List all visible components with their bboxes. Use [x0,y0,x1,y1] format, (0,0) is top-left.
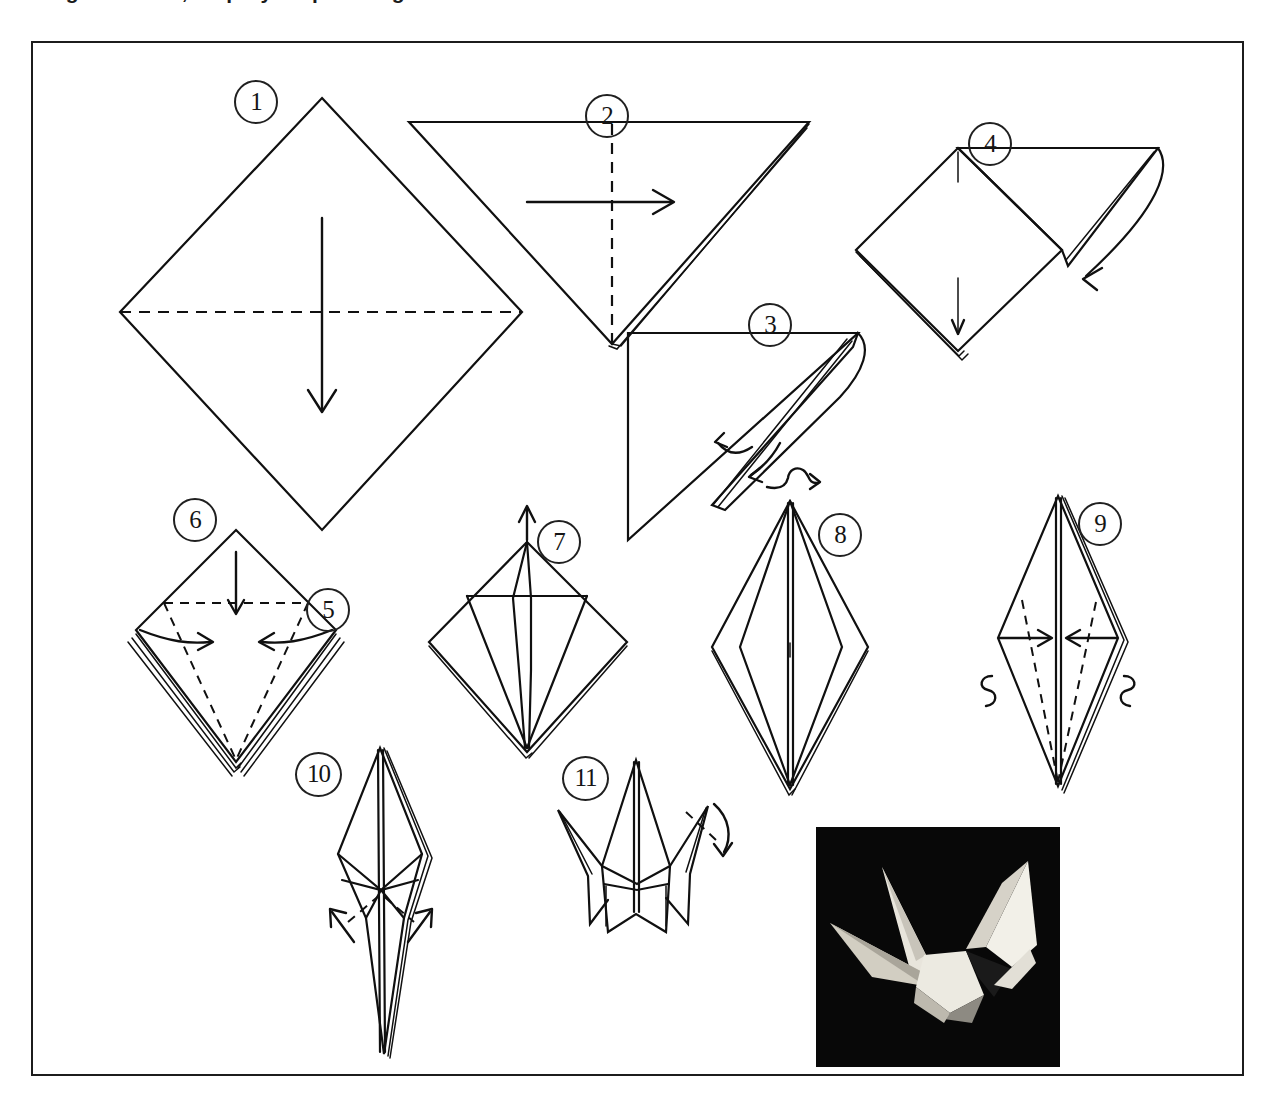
body-crease-upper [602,866,670,884]
left-out-arrow-shaft [332,912,354,942]
inner-right-fold [527,542,531,748]
right-inward-arrow-shaft [262,630,332,643]
flap-edge [1066,152,1154,260]
square-base-outline [856,148,1062,351]
turn-over-loop-path [767,468,818,488]
step-5-6-figure: 6 5 [110,520,370,780]
crane-photo-art [816,827,1060,1067]
step-badge-11: 11 [562,756,609,801]
step-badge-3: 3 [748,303,792,347]
left-diagonal-crease [1022,600,1058,782]
head-arrow-head [714,843,732,856]
body-crease-lower [604,884,668,890]
finished-crane-photograph [816,827,1060,1067]
right-out-arrow-shaft [408,912,430,942]
step-badge-10: 10 [295,752,342,797]
step-9-drawing [950,490,1170,800]
right-wing-inner [686,808,706,872]
head-arrow-shaft [714,804,729,852]
step-badge-1: 1 [234,80,278,124]
step-badge-6: 6 [173,498,217,542]
crane-body [602,760,670,932]
step-7-drawing [415,520,645,770]
layer-right [529,646,627,758]
turn-over-loop-icon [762,462,832,498]
step-5-6-drawing [110,520,370,780]
layer-left-3 [128,642,232,776]
flap-motion-curve [1086,148,1163,276]
step-badge-2: 2 [585,94,629,138]
step-badge-7: 7 [537,520,581,564]
left-wing [558,810,608,924]
step-badge-8: 8 [818,513,862,557]
kite-outline [429,542,627,752]
layer-edge-right [792,651,868,795]
step-badge-4: 4 [968,122,1012,166]
origami-diagram-page: Origami crane, step-by-step folding 1 2 [0,0,1277,1120]
squash-arrow-head [715,433,727,447]
step-11-figure: 11 [540,748,770,978]
step-4-figure: 4 [840,138,1180,388]
step-4-drawing [840,138,1180,388]
step-badge-5: 5 [306,588,350,632]
centre-line-right [383,750,385,1052]
step-9-figure: 9 [950,490,1170,800]
step-badge-9: 9 [1078,502,1122,546]
turn-over-symbol [762,462,832,498]
step-7-figure: 7 [415,520,645,770]
caption-text: Origami crane, step-by-step folding [34,0,405,4]
left-inward-arrow-shaft [140,630,210,643]
left-curl-symbol [982,676,996,706]
step-10-figure: 10 [280,742,480,1062]
left-wing-inner [560,812,592,874]
triangle-outline [409,122,809,344]
caption-strip: Origami crane, step-by-step folding [0,0,1277,22]
right-curl-symbol [1121,676,1135,706]
